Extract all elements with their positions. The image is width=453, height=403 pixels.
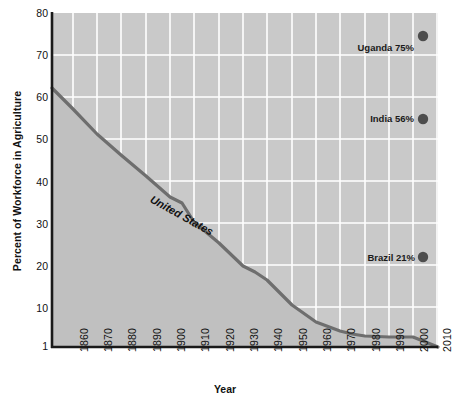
x-tick-1960: 1960: [321, 328, 333, 352]
x-tick-1920: 1920: [224, 328, 236, 352]
x-tick-1880: 1880: [126, 328, 138, 352]
x-tick-1890: 1890: [151, 328, 163, 352]
x-tick-1860: 1860: [78, 328, 90, 352]
x-tick-1910: 1910: [199, 328, 211, 352]
x-tick-1990: 1990: [394, 328, 406, 352]
x-tick-1900: 1900: [175, 328, 187, 352]
x-tick-1940: 1940: [272, 328, 284, 352]
x-tick-2010: 2010: [441, 328, 453, 352]
x-tick-1950: 1950: [297, 328, 309, 352]
x-tick-1980: 1980: [370, 328, 382, 352]
x-tick-1870: 1870: [102, 328, 114, 352]
x-tick-1970: 1970: [345, 328, 357, 352]
x-tick-2000: 2000: [418, 328, 430, 352]
x-tick-1930: 1930: [248, 328, 260, 352]
